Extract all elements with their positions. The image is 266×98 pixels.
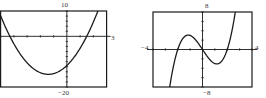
label-ymin: −20 [58, 90, 69, 97]
label-xmax: 4 [255, 45, 259, 52]
graph-right-plot [133, 0, 266, 98]
graph-right: 8 −4 4 −8 [133, 0, 266, 98]
plot-group [1, 0, 111, 87]
label-ymin: −8 [203, 90, 210, 97]
label-ymax: 10 [61, 2, 68, 9]
plot-group [147, 0, 257, 98]
label-xmin: −4 [141, 45, 148, 52]
graph-left: 10 3 −20 [0, 0, 133, 98]
label-ymax: 8 [205, 3, 209, 10]
graph-left-plot [0, 0, 133, 98]
label-xmax: 3 [111, 35, 115, 42]
